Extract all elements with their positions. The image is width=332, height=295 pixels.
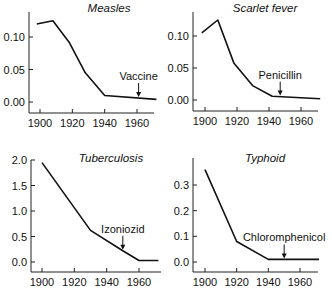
axis-frame bbox=[193, 12, 318, 111]
y-tick-label: 2.0 bbox=[12, 154, 27, 166]
data-line bbox=[42, 163, 158, 261]
y-tick-label: 0.0 bbox=[12, 256, 27, 268]
y-tick-label: 0.2 bbox=[174, 205, 189, 217]
axis-frame bbox=[193, 158, 318, 272]
x-tick-label: 1940 bbox=[92, 117, 116, 129]
x-tick-label: 1900 bbox=[28, 117, 52, 129]
x-tick-label: 1920 bbox=[62, 276, 86, 288]
x-tick-label: 1960 bbox=[288, 276, 312, 288]
x-tick-label: 1900 bbox=[193, 276, 217, 288]
x-tick-label: 1900 bbox=[193, 115, 217, 127]
x-tick-label: 1920 bbox=[224, 276, 248, 288]
y-tick-label: 1.5 bbox=[12, 180, 27, 192]
annotation-label: Penicillin bbox=[258, 69, 301, 81]
y-tick-label: 0.00 bbox=[168, 94, 189, 106]
panel-title: Tuberculosis bbox=[79, 152, 144, 164]
y-tick-label: 0.10 bbox=[4, 31, 25, 43]
y-tick-label: 0.00 bbox=[4, 96, 25, 108]
annotation-label: Izoniozid bbox=[101, 223, 144, 235]
y-tick-label: 1.0 bbox=[12, 205, 27, 217]
x-tick-label: 1940 bbox=[256, 276, 280, 288]
x-tick-label: 1920 bbox=[60, 117, 84, 129]
panel-measles: 0.000.050.101900192019401960MeaslesVacci… bbox=[4, 2, 158, 129]
panel-tuberculosis: 0.00.51.01.52.01900192019401960Tuberculo… bbox=[12, 152, 161, 288]
panel-typhoid: 0.00.10.20.31900192019401960TyphoidChlor… bbox=[174, 152, 326, 288]
x-tick-label: 1960 bbox=[127, 276, 151, 288]
arrow-head-icon bbox=[136, 92, 141, 97]
x-tick-label: 1940 bbox=[94, 276, 118, 288]
arrow-head-icon bbox=[278, 91, 283, 96]
x-tick-label: 1940 bbox=[257, 115, 281, 127]
disease-mortality-charts: 0.000.050.101900192019401960MeaslesVacci… bbox=[0, 0, 332, 295]
x-tick-label: 1900 bbox=[30, 276, 54, 288]
x-tick-label: 1960 bbox=[289, 115, 313, 127]
annotation-label: Vaccine bbox=[119, 70, 157, 82]
panel-title: Scarlet fever bbox=[233, 2, 299, 14]
y-tick-label: 0.10 bbox=[168, 30, 189, 42]
y-tick-label: 0.0 bbox=[174, 256, 189, 268]
arrow-head-icon bbox=[282, 253, 287, 258]
annotation-label: Chloromphenicol bbox=[243, 231, 326, 243]
panel-title: Measles bbox=[88, 2, 131, 14]
panel-scarlet-fever: 0.000.050.101900192019401960Scarlet feve… bbox=[168, 2, 321, 127]
axis-frame bbox=[31, 160, 161, 272]
y-tick-label: 0.05 bbox=[4, 64, 25, 76]
y-tick-label: 0.5 bbox=[12, 231, 27, 243]
data-line bbox=[205, 170, 319, 260]
x-tick-label: 1920 bbox=[225, 115, 249, 127]
data-line bbox=[202, 20, 320, 99]
y-tick-label: 0.05 bbox=[168, 62, 189, 74]
panel-title: Typhoid bbox=[245, 152, 286, 164]
x-tick-label: 1960 bbox=[125, 117, 149, 129]
y-tick-label: 0.1 bbox=[174, 230, 189, 242]
y-tick-label: 0.3 bbox=[174, 179, 189, 191]
